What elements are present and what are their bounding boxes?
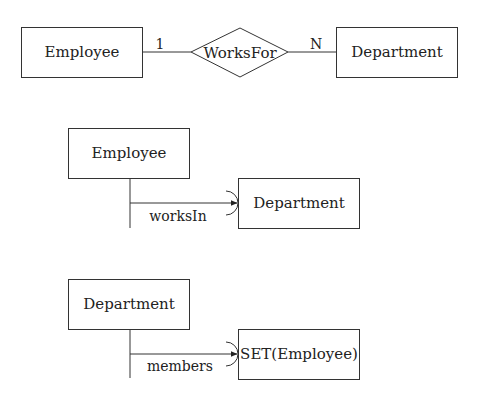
ref1-target-entity: Department xyxy=(238,178,360,229)
ref2-target-label: SET(Employee) xyxy=(240,347,358,362)
employee-entity: Employee xyxy=(21,27,143,78)
ref2-source-label: Department xyxy=(83,297,174,312)
ref1-source-label: Employee xyxy=(92,146,167,161)
ref1-target-label: Department xyxy=(253,196,344,211)
employee-entity-label: Employee xyxy=(45,45,120,60)
ref1-attribute-label: worksIn xyxy=(149,209,206,223)
ref2-target-entity: SET(Employee) xyxy=(238,329,360,380)
diagram-canvas: Employee WorksFor Department 1 N Employe… xyxy=(0,0,487,394)
ref1-source-entity: Employee xyxy=(68,128,190,179)
left-cardinality: 1 xyxy=(156,37,165,51)
department-entity-label: Department xyxy=(351,45,442,60)
department-entity: Department xyxy=(336,27,458,78)
ref2-source-entity: Department xyxy=(68,279,190,330)
right-cardinality: N xyxy=(310,37,322,51)
relationship-label: WorksFor xyxy=(203,46,276,61)
ref2-attribute-label: members xyxy=(147,359,213,373)
